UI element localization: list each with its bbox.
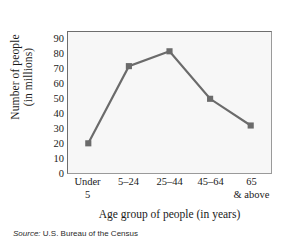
x-tick-label-line1: 5–24 — [118, 176, 139, 187]
y-tick-label: 60 — [36, 78, 64, 89]
chart-figure: Number of people (in millions) 010203040… — [0, 0, 299, 251]
source-text: U.S. Bureau of the Census — [43, 229, 138, 238]
x-tick-label-line1: 65 — [246, 176, 257, 187]
x-tick-label-line2: & above — [220, 189, 284, 202]
y-axis-tick-labels: 0102030405060708090 — [33, 31, 64, 174]
source-label: Source: — [13, 229, 41, 238]
x-axis-tick-labels: Under55–2425–4445–6465& above — [67, 176, 272, 210]
data-point-marker: 45–64: 50 — [207, 96, 213, 102]
y-tick-label: 50 — [36, 93, 64, 104]
data-point-marker: Under 5: 20 — [85, 140, 91, 146]
x-tick-label-line2: 5 — [56, 189, 120, 202]
line-series: Under 5: 205–24: 7225–44: 8245–64: 5065 … — [68, 32, 271, 173]
data-point-marker: 5–24: 72 — [126, 63, 132, 69]
plot-inner: Under 5: 205–24: 7225–44: 8245–64: 5065 … — [68, 32, 271, 173]
series-line — [88, 51, 250, 143]
source-note: Source: U.S. Bureau of the Census — [13, 229, 138, 239]
data-point-marker: 65 & above: 32 — [248, 122, 254, 128]
y-tick-label: 70 — [36, 63, 64, 74]
y-tick-label: 10 — [36, 154, 64, 165]
plot-area: Under 5: 205–24: 7225–44: 8245–64: 5065 … — [67, 31, 272, 174]
data-point-marker: 25–44: 82 — [166, 48, 172, 54]
y-tick-label: 20 — [36, 139, 64, 150]
y-tick-label: 30 — [36, 124, 64, 135]
y-tick-label: 90 — [36, 33, 64, 44]
x-axis-title: Age group of people (in years) — [67, 208, 272, 221]
y-tick-label: 80 — [36, 48, 64, 59]
y-axis-title-line1: Number of people — [9, 34, 22, 119]
y-tick-label: 40 — [36, 109, 64, 120]
x-tick-label: 65& above — [220, 176, 284, 201]
